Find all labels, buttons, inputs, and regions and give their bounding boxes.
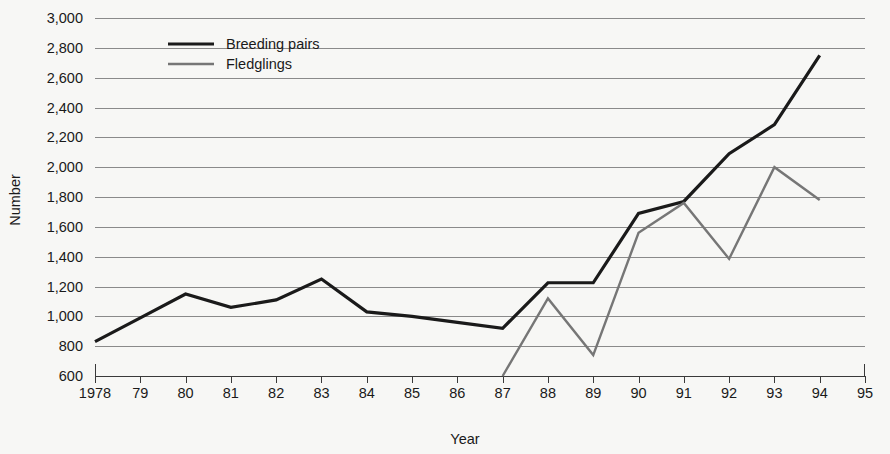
data-series-group <box>95 55 820 376</box>
x-axis-title: Year <box>450 431 479 447</box>
y-tick-label: 1,000 <box>47 308 83 324</box>
legend-label: Fledglings <box>226 56 292 72</box>
legend: Breeding pairsFledglings <box>168 36 320 72</box>
x-tick-label: 88 <box>540 385 556 401</box>
x-tick-label: 91 <box>676 385 692 401</box>
y-tick-label: 2,000 <box>47 159 83 175</box>
x-tick-label: 90 <box>630 385 646 401</box>
y-tick-label: 1,600 <box>47 219 83 235</box>
x-tick-label: 94 <box>812 385 828 401</box>
series-line-fledglings <box>503 167 820 376</box>
x-tick-label: 85 <box>404 385 420 401</box>
legend-label: Breeding pairs <box>226 36 320 52</box>
series-line-breeding-pairs <box>95 55 820 341</box>
y-tick-label: 2,200 <box>47 129 83 145</box>
y-tick-label: 600 <box>59 368 83 384</box>
x-tick-label: 95 <box>857 385 873 401</box>
y-tick-label: 1,800 <box>47 189 83 205</box>
x-tick-label: 92 <box>721 385 737 401</box>
y-tick-label: 2,600 <box>47 70 83 86</box>
x-tick-label: 79 <box>132 385 148 401</box>
y-tick-labels-group: 3,0002,8002,6002,4002,2002,0001,8001,600… <box>47 10 83 384</box>
x-tick-label: 1978 <box>79 385 111 401</box>
x-tick-label: 89 <box>585 385 601 401</box>
y-axis-title: Number <box>7 174 23 226</box>
x-tick-labels-group: 19787980818283848586878889909192939495 <box>79 385 873 401</box>
y-tick-label: 3,000 <box>47 10 83 26</box>
chart-canvas: 3,0002,8002,6002,4002,2002,0001,8001,600… <box>0 0 890 454</box>
y-tick-label: 1,400 <box>47 249 83 265</box>
x-tick-label: 83 <box>313 385 329 401</box>
x-tick-label: 81 <box>223 385 239 401</box>
x-tick-label: 80 <box>178 385 194 401</box>
x-tick-label: 86 <box>449 385 465 401</box>
y-tick-label: 1,200 <box>47 279 83 295</box>
x-tick-label: 82 <box>268 385 284 401</box>
y-tick-label: 2,800 <box>47 40 83 56</box>
x-tick-label: 93 <box>766 385 782 401</box>
line-chart: 3,0002,8002,6002,4002,2002,0001,8001,600… <box>0 0 890 454</box>
gridlines-group <box>95 19 865 347</box>
y-tick-label: 2,400 <box>47 100 83 116</box>
axis-lines-group <box>95 364 865 377</box>
y-tick-label: 800 <box>59 338 83 354</box>
x-tick-label: 84 <box>359 385 375 401</box>
x-tick-label: 87 <box>495 385 511 401</box>
